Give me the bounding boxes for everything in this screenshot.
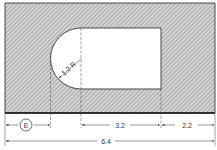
dim-right-margin: 2.2 [182,122,192,129]
e-callout-label: E [24,122,29,129]
dim-overall-width: 6.4 [101,138,111,145]
technical-drawing: 1.2 R E 3.2 2.2 6.4 [0,0,217,150]
hatched-plate [5,3,215,113]
radius-label: 1.2 R [60,60,77,76]
dim-slot-length: 3.2 [115,122,125,129]
